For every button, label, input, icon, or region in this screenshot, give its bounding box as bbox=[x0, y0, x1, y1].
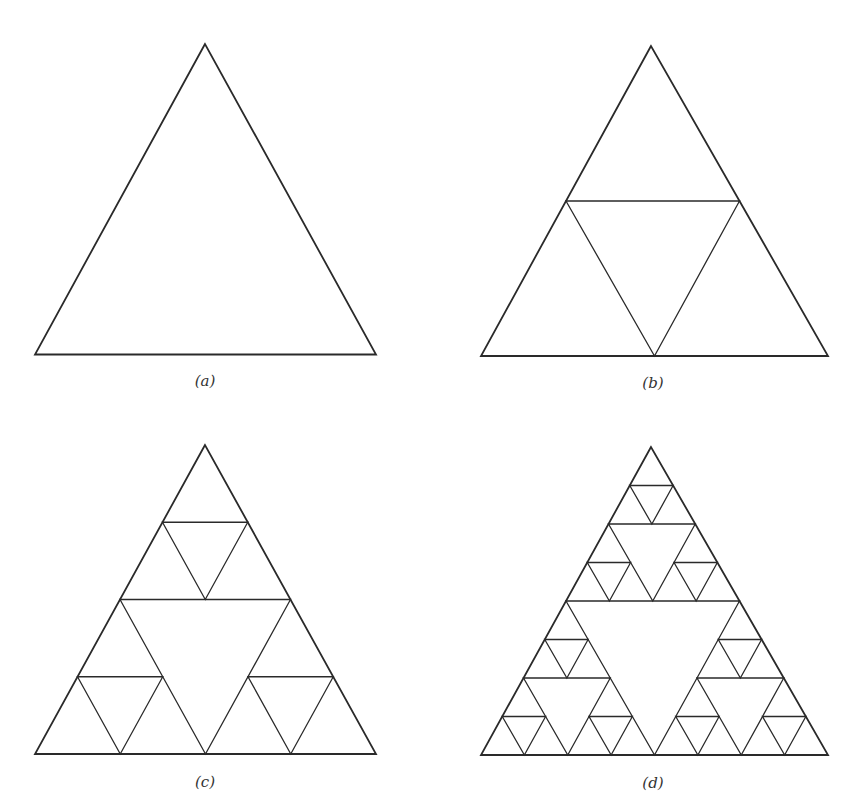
sierpinski-figure bbox=[0, 0, 864, 812]
panel-c-label: (c) bbox=[195, 773, 215, 791]
panel-c-triangle bbox=[35, 445, 376, 754]
panel-a-triangle bbox=[35, 44, 376, 355]
panel-b-label: (b) bbox=[642, 374, 663, 392]
panel-d-triangle bbox=[481, 447, 828, 755]
panel-b-triangle bbox=[481, 46, 828, 356]
panel-a-label: (a) bbox=[195, 372, 216, 390]
panel-d-label: (d) bbox=[642, 774, 663, 792]
